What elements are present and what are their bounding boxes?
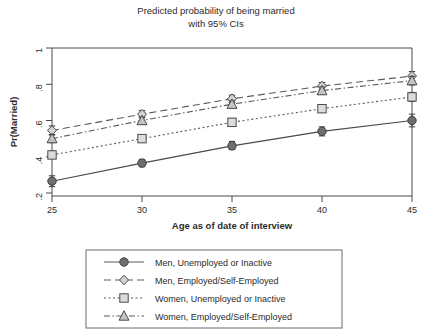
chart-figure: Predicted probability of being married w…	[0, 0, 432, 335]
y-tick-label: .6	[34, 121, 44, 129]
x-tick-label: 30	[137, 205, 147, 215]
y-axis-title: Pr(Married)	[8, 97, 19, 148]
y-tick-label: 1	[34, 48, 44, 53]
data-point-filled-circle	[318, 127, 326, 135]
series-line	[52, 121, 412, 182]
data-point-open-triangle	[137, 115, 147, 124]
legend-label: Women, Unemployed or Inactive	[155, 294, 285, 304]
x-axis-title: Age as of date of interview	[172, 220, 293, 231]
data-point-open-square	[120, 294, 128, 302]
data-series-layer	[47, 71, 417, 186]
data-point-open-square	[318, 105, 326, 113]
chart-canvas: 1 .8 .6 .4 .2 Pr(Married) 25 30 35 40 45…	[0, 0, 432, 335]
series-line	[52, 81, 412, 139]
x-tick-label: 45	[407, 205, 417, 215]
data-point-filled-circle	[228, 142, 236, 150]
x-axis-tick-labels: 25 30 35 40 45	[47, 205, 417, 215]
chart-legend: Men, Unemployed or Inactive Men, Employe…	[86, 250, 342, 328]
y-axis-tick-labels: 1 .8 .6 .4 .2	[34, 48, 44, 201]
y-tick-label: .8	[34, 84, 44, 92]
x-axis-ticks	[52, 196, 412, 202]
y-axis-ticks	[46, 48, 52, 193]
legend-label: Women, Employed/Self-Employed	[155, 312, 292, 322]
legend-label: Men, Unemployed or Inactive	[155, 258, 272, 268]
y-tick-label: .4	[34, 157, 44, 165]
data-point-open-square	[48, 151, 56, 159]
data-point-open-square	[138, 134, 146, 142]
x-tick-label: 40	[317, 205, 327, 215]
x-tick-label: 35	[227, 205, 237, 215]
data-point-filled-circle	[138, 159, 146, 167]
data-point-open-square	[228, 118, 236, 126]
series-3	[47, 75, 417, 142]
data-point-filled-circle	[48, 177, 56, 185]
x-tick-label: 25	[47, 205, 57, 215]
data-point-filled-circle	[408, 116, 416, 124]
data-point-filled-circle	[120, 258, 128, 266]
legend-label: Men, Employed/Self-Employed	[155, 276, 279, 286]
y-tick-label: .2	[34, 193, 44, 201]
data-point-open-square	[408, 93, 416, 101]
